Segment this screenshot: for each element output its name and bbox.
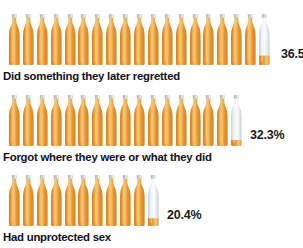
value-label: 36.5 — [281, 47, 303, 61]
pictogram-bottle-full — [147, 14, 160, 66]
beer-bottle-icon — [133, 175, 146, 227]
pictogram-bottle-full — [105, 175, 118, 227]
beer-bottle-icon — [64, 175, 77, 227]
pictogram-bottle-partial — [258, 14, 271, 66]
pictogram-bottle-full — [161, 95, 174, 147]
pictogram-icon-group — [8, 175, 161, 227]
pictogram-bottle-full — [105, 95, 118, 147]
beer-bottle-icon — [258, 14, 271, 66]
pictogram-bottle-full — [91, 175, 104, 227]
beer-bottle-icon — [147, 14, 160, 66]
pictogram-bottle-full — [77, 175, 90, 227]
beer-bottle-icon — [36, 14, 49, 66]
value-label: 20.4% — [167, 208, 201, 222]
pictogram-bottle-full — [50, 95, 63, 147]
pictogram-bottle-full — [202, 95, 215, 147]
pictogram-bottle-full — [91, 14, 104, 66]
pictogram-bottle-full — [147, 95, 160, 147]
pictogram-bottle-full — [50, 14, 63, 66]
beer-bottle-icon — [77, 95, 90, 147]
pictogram-bottle-full — [119, 95, 132, 147]
beer-bottle-icon — [147, 95, 160, 147]
beer-bottle-icon — [175, 95, 188, 147]
pictogram-bottle-full — [22, 175, 35, 227]
pictogram-bottle-full — [22, 14, 35, 66]
category-label: Had unprotected sex — [3, 231, 111, 243]
pictogram-bottle-full — [105, 14, 118, 66]
beer-bottle-icon — [161, 95, 174, 147]
beer-bottle-icon — [105, 95, 118, 147]
beer-bottle-icon — [230, 14, 243, 66]
beer-bottle-icon — [8, 95, 21, 147]
category-label: Forgot where they were or what they did — [3, 151, 212, 163]
pictogram-bottle-full — [133, 175, 146, 227]
pictogram-bottle-full — [77, 95, 90, 147]
pictogram-bottle-full — [8, 14, 21, 66]
pictogram-bottle-full — [119, 14, 132, 66]
pictogram-bottle-full — [36, 175, 49, 227]
pictogram-bottle-full — [230, 14, 243, 66]
beer-bottle-icon — [119, 14, 132, 66]
pictogram-icon-group — [8, 95, 244, 147]
beer-bottle-icon — [189, 14, 202, 66]
pictogram-bottle-full — [189, 14, 202, 66]
pictogram-bottle-full — [36, 14, 49, 66]
beer-bottle-icon — [119, 95, 132, 147]
pictogram-bottle-full — [133, 14, 146, 66]
beer-bottle-icon — [64, 14, 77, 66]
pictogram-bottle-partial — [147, 175, 160, 227]
beer-bottle-icon — [189, 95, 202, 147]
beer-bottle-icon — [91, 175, 104, 227]
pictogram-bottle-full — [202, 14, 215, 66]
beer-bottle-icon — [22, 95, 35, 147]
beer-bottle-icon — [77, 175, 90, 227]
beer-bottle-icon — [230, 95, 243, 147]
pictogram-bottle-full — [64, 95, 77, 147]
beer-bottle-icon — [216, 95, 229, 147]
beer-bottle-icon — [202, 95, 215, 147]
beer-bottle-icon — [50, 95, 63, 147]
beer-bottle-icon — [50, 175, 63, 227]
beer-bottle-icon — [77, 14, 90, 66]
beer-bottle-icon — [244, 14, 257, 66]
pictogram-bottle-full — [216, 95, 229, 147]
beer-bottle-icon — [8, 175, 21, 227]
beer-bottle-icon — [147, 175, 160, 227]
beer-bottle-icon — [119, 175, 132, 227]
pictogram-bottle-full — [119, 175, 132, 227]
pictogram-bottle-full — [133, 95, 146, 147]
beer-bottle-icon — [105, 175, 118, 227]
pictogram-bottle-full — [161, 14, 174, 66]
beer-bottle-icon — [133, 95, 146, 147]
beer-bottle-icon — [91, 14, 104, 66]
pictogram-bottle-full — [175, 95, 188, 147]
beer-bottle-icon — [36, 175, 49, 227]
beer-bottle-icon — [64, 95, 77, 147]
pictogram-bottle-full — [8, 95, 21, 147]
beer-bottle-icon — [8, 14, 21, 66]
beer-bottle-icon — [22, 175, 35, 227]
pictogram-bottle-full — [64, 14, 77, 66]
pictogram-icon-group — [8, 14, 272, 66]
beer-bottle-icon — [105, 14, 118, 66]
beer-bottle-icon — [175, 14, 188, 66]
pictogram-bottle-full — [50, 175, 63, 227]
pictogram-bottle-full — [22, 95, 35, 147]
beer-bottle-icon — [36, 95, 49, 147]
pictogram-bottle-full — [77, 14, 90, 66]
pictogram-bottle-full — [175, 14, 188, 66]
beer-bottle-icon — [202, 14, 215, 66]
beer-bottle-icon — [216, 14, 229, 66]
beer-bottle-icon — [161, 14, 174, 66]
pictogram-bottle-full — [244, 14, 257, 66]
pictogram-bottle-full — [91, 95, 104, 147]
beer-bottle-icon — [133, 14, 146, 66]
pictogram-bottle-full — [36, 95, 49, 147]
pictogram-bottle-partial — [230, 95, 243, 147]
beer-bottle-icon — [91, 95, 104, 147]
value-label: 32.3% — [250, 128, 284, 142]
category-label: Did something they later regretted — [3, 70, 180, 82]
beer-bottle-icon — [50, 14, 63, 66]
pictogram-bottle-full — [8, 175, 21, 227]
pictogram-bottle-full — [189, 95, 202, 147]
